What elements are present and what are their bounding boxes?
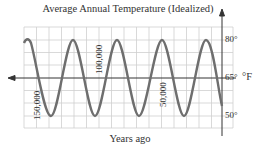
y-unit-label: °F xyxy=(242,71,252,82)
y-tick-50: 50° xyxy=(225,110,238,120)
x-axis-label: Years ago xyxy=(60,133,200,144)
chart-plot xyxy=(0,0,256,154)
x-axis-arrow-icon xyxy=(8,76,15,81)
x-tick-50000: 50,000 xyxy=(158,82,168,107)
x-tick-100000: 100,000 xyxy=(94,45,104,74)
y-axis-arrow-icon xyxy=(220,9,225,16)
axes xyxy=(8,9,236,136)
x-tick-150000: 150,000 xyxy=(32,91,42,120)
y-tick-80: 80° xyxy=(225,34,238,44)
y-tick-65: 65° xyxy=(225,72,238,82)
